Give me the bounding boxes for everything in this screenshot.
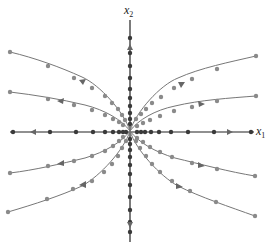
arrow-upper-right-outer-icon bbox=[178, 82, 185, 88]
trajectory-lower-right-inner bbox=[130, 131, 255, 176]
phase-portrait-canvas bbox=[0, 0, 270, 246]
trajectory-lower-right-outer bbox=[130, 131, 255, 216]
trajectory-lower-left-outer bbox=[8, 131, 130, 212]
x1-axis-label: x1 bbox=[256, 125, 265, 140]
arrow-upper-left-outer-icon bbox=[79, 79, 86, 85]
trajectory-lower-left-inner bbox=[10, 131, 130, 173]
arrow-lower-left-inner-icon bbox=[57, 160, 64, 166]
x2-axis-label-subscript: 2 bbox=[129, 10, 133, 19]
arrow-right-icon bbox=[227, 129, 233, 135]
x2-axis-label: x2 bbox=[124, 4, 133, 19]
x1-axis-label-subscript: 1 bbox=[261, 131, 265, 140]
arrow-upper-right-inner-icon bbox=[198, 101, 205, 107]
arrow-down-icon bbox=[127, 222, 133, 228]
trajectory-upper-left-inner bbox=[10, 92, 130, 131]
arrow-left-icon bbox=[30, 129, 36, 135]
trajectories bbox=[8, 52, 256, 216]
arrow-up-icon bbox=[127, 44, 133, 50]
